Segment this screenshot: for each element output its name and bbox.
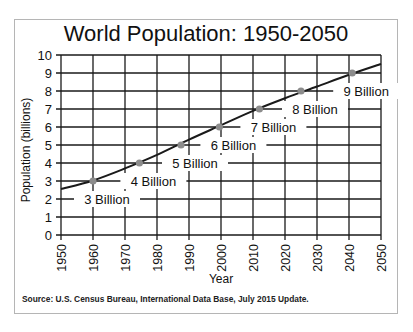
x-tick-label: 1990	[183, 244, 197, 272]
y-tick-label: 4	[45, 156, 52, 171]
milestone-label: 9 Billion	[343, 84, 389, 99]
x-tick-label: 1950	[55, 244, 69, 272]
y-tick-label: 10	[38, 48, 52, 63]
plot-area: 0123456789101950196019701980199020002010…	[0, 0, 413, 332]
milestone-marker	[89, 177, 96, 184]
x-tick-label: 2020	[279, 244, 293, 272]
milestone-marker	[349, 69, 356, 76]
milestone-marker	[216, 123, 223, 130]
y-tick-label: 2	[45, 192, 52, 207]
x-tick-label: 2010	[247, 244, 261, 272]
milestone-label: 6 Billion	[211, 138, 257, 153]
milestone-marker	[256, 105, 263, 112]
x-tick-label: 1980	[151, 244, 165, 272]
x-tick-label: 2000	[215, 244, 229, 272]
milestone-marker	[297, 87, 304, 94]
y-tick-label: 6	[45, 120, 52, 135]
x-tick-label: 2030	[311, 244, 325, 272]
milestone-label: 3 Billion	[84, 192, 130, 207]
y-tick-label: 9	[45, 66, 52, 81]
milestone-marker	[177, 141, 184, 148]
y-tick-label: 8	[45, 84, 52, 99]
y-tick-label: 5	[45, 138, 52, 153]
milestone-label: 8 Billion	[292, 102, 338, 117]
milestone-marker	[136, 159, 143, 166]
x-tick-label: 2040	[343, 244, 357, 272]
x-tick-label: 1960	[87, 244, 101, 272]
milestone-label: 5 Billion	[172, 156, 218, 171]
y-tick-label: 7	[45, 102, 52, 117]
y-tick-label: 3	[45, 174, 52, 189]
milestone-label: 4 Billion	[131, 174, 177, 189]
y-tick-label: 1	[45, 210, 52, 225]
y-tick-label: 0	[45, 228, 52, 243]
milestone-label: 7 Billion	[251, 120, 297, 135]
x-tick-label: 1970	[119, 244, 133, 272]
x-tick-label: 2050	[375, 244, 389, 272]
